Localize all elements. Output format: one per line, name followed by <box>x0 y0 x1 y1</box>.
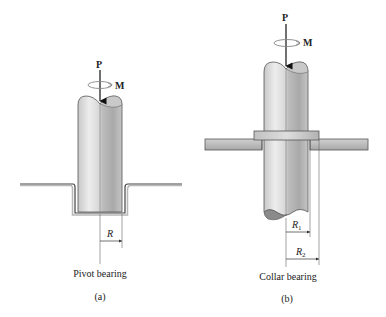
force-label: P <box>282 12 288 23</box>
force-arrow-p: P <box>96 59 102 101</box>
force-arrow-p: P <box>282 12 288 66</box>
radius-label: R <box>106 228 113 239</box>
collar <box>254 131 319 140</box>
moment-arrow-m: M <box>88 80 125 91</box>
moment-label: M <box>115 80 125 91</box>
radius2-label: R2 <box>295 246 306 259</box>
collar-shaft <box>264 62 308 220</box>
figure-caption: Collar bearing <box>259 271 316 282</box>
pivot-bearing-figure: P M R Pivot bearing (a) <box>20 59 182 303</box>
pivot-shaft <box>78 96 122 212</box>
figure-tag: (b) <box>281 293 293 305</box>
force-label: P <box>96 59 102 70</box>
radius1-label: R1 <box>291 219 302 232</box>
radius-dimension: R <box>100 214 122 264</box>
moment-label: M <box>303 37 313 48</box>
moment-arrow-m: M <box>274 37 313 48</box>
collar-bearing-figure: P M R1 R2 Collar bearing (b) <box>205 12 368 305</box>
figure-tag: (a) <box>94 291 105 303</box>
figure-caption: Pivot bearing <box>73 268 127 279</box>
